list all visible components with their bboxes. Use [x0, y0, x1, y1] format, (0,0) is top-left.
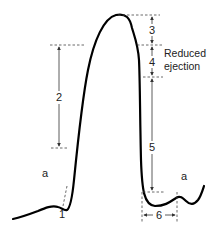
pressure-waveform-curve: [13, 15, 204, 219]
waveform-diagram: 3 4 Reduced ejection 5 2 1 a a 6: [0, 0, 220, 229]
annotation-line-1: Reduced: [164, 47, 206, 59]
onset-guide: [63, 186, 67, 206]
a-wave-label-right: a: [181, 170, 188, 182]
segment-2-label: 2: [56, 91, 62, 103]
a-wave-label-left: a: [42, 167, 49, 179]
segment-6-label: 6: [156, 209, 162, 221]
segment-1-label: 1: [59, 208, 65, 220]
segment-3-label: 3: [149, 24, 155, 36]
annotation-line-2: ejection: [164, 60, 200, 72]
segment-5-label: 5: [149, 141, 155, 153]
segment-4-label: 4: [149, 56, 155, 68]
